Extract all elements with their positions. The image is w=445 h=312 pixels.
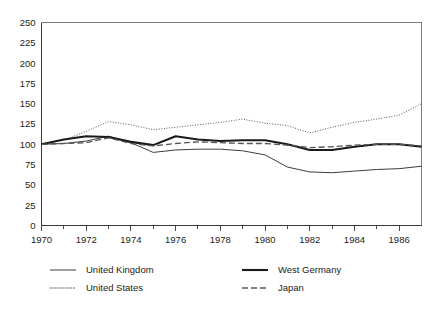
y-tick-label: 100 <box>20 139 36 150</box>
y-tick-label: 75 <box>25 159 36 170</box>
legend-label-united-states: United States <box>86 282 143 293</box>
y-tick-label: 250 <box>20 17 36 28</box>
line-chart: 0255075100125150175200225250 19701972197… <box>0 0 445 312</box>
x-tick-label: 1972 <box>76 234 97 245</box>
y-tick-label: 200 <box>20 58 36 69</box>
y-tick-label: 175 <box>20 78 36 89</box>
x-axis: 197019721974197619781980198219841986 <box>31 226 410 245</box>
x-tick-label: 1982 <box>299 234 320 245</box>
x-tick-label: 1974 <box>120 234 141 245</box>
y-tick-label: 225 <box>20 37 36 48</box>
x-tick-label: 1980 <box>254 234 275 245</box>
legend-label-united-kingdom: United Kingdom <box>86 264 154 275</box>
plot-frame <box>42 23 422 226</box>
y-tick-label: 150 <box>20 98 36 109</box>
x-tick-label: 1986 <box>389 234 410 245</box>
x-tick-label: 1978 <box>210 234 231 245</box>
x-tick-label: 1976 <box>165 234 186 245</box>
y-tick-label: 0 <box>30 220 35 231</box>
y-axis: 0255075100125150175200225250 <box>20 17 36 231</box>
plot-border <box>42 23 422 226</box>
y-tick-label: 25 <box>25 200 36 211</box>
series-layer <box>42 104 422 173</box>
legend-label-japan: Japan <box>278 282 304 293</box>
y-tick-label: 50 <box>25 179 36 190</box>
x-tick-label: 1970 <box>31 234 52 245</box>
chart-figure: 0255075100125150175200225250 19701972197… <box>0 0 445 312</box>
legend-label-west-germany: West Germany <box>278 264 341 275</box>
x-tick-label: 1984 <box>344 234 365 245</box>
y-tick-label: 125 <box>20 118 36 129</box>
chart-legend: United KingdomWest GermanyUnited StatesJ… <box>50 264 341 293</box>
